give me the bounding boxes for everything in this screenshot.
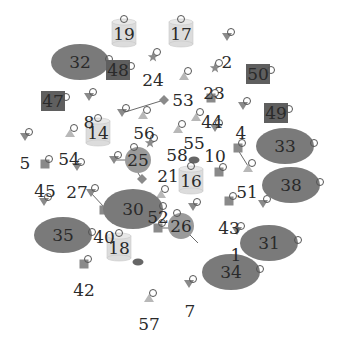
ring-icon xyxy=(150,290,157,297)
node-label-17: 17 xyxy=(170,24,192,44)
square-marker-icon xyxy=(80,256,92,269)
triangle-down-marker-icon xyxy=(117,105,130,118)
node-label-25: 25 xyxy=(127,150,149,170)
ring-icon xyxy=(154,49,161,56)
node-label-53: 53 xyxy=(172,92,194,109)
triangle-down-marker-icon xyxy=(184,276,197,289)
triangle-down-marker-icon xyxy=(86,185,99,198)
ring-icon xyxy=(249,160,256,167)
node-label-26: 26 xyxy=(170,216,192,236)
ring-icon xyxy=(185,68,192,75)
node-label-38: 38 xyxy=(280,175,302,195)
triangle-down-marker-icon xyxy=(238,98,251,111)
node-label-23: 23 xyxy=(203,85,225,102)
triangle-up-marker-icon xyxy=(179,68,192,81)
node-label-8: 8 xyxy=(84,114,95,131)
node-label-32: 32 xyxy=(69,52,91,72)
ring-icon xyxy=(179,121,186,128)
ring-icon xyxy=(71,125,78,132)
triangle-down-marker-icon xyxy=(84,89,97,102)
node-label-58: 58 xyxy=(166,147,188,164)
node-label-35: 35 xyxy=(52,225,74,245)
node-label-30: 30 xyxy=(122,199,144,219)
ring-icon xyxy=(162,186,169,193)
ring-icon xyxy=(144,107,151,114)
node-label-1: 1 xyxy=(231,247,242,264)
edge xyxy=(91,193,104,207)
star-marker-icon xyxy=(148,49,161,62)
node-label-7: 7 xyxy=(185,303,196,320)
node-label-40: 40 xyxy=(93,229,115,246)
triangle-down-marker-icon xyxy=(109,152,122,165)
node-label-19: 19 xyxy=(113,24,135,44)
network-diagram: 323338303531344850474919171416182526 224… xyxy=(0,0,341,350)
node-label-47: 47 xyxy=(42,91,64,111)
triangle-up-marker-icon xyxy=(65,125,78,138)
node-label-56: 56 xyxy=(133,125,155,142)
node-label-48: 48 xyxy=(107,60,129,80)
node-label-2: 2 xyxy=(222,54,233,71)
node-label-45: 45 xyxy=(34,183,56,200)
node-label-31: 31 xyxy=(258,233,280,253)
triangle-down-marker-icon xyxy=(222,29,235,42)
node-label-44: 44 xyxy=(201,114,223,131)
node-label-4: 4 xyxy=(236,125,247,142)
triangle-up-marker-icon xyxy=(144,290,157,303)
diamond-marker-icon xyxy=(137,174,147,184)
node-label-24: 24 xyxy=(142,72,164,89)
ellipse-small-marker-icon xyxy=(133,259,144,266)
node-label-52: 52 xyxy=(147,209,169,226)
square-marker-icon xyxy=(41,156,53,169)
triangle-down-marker-icon xyxy=(188,199,201,212)
node-label-57: 57 xyxy=(138,316,160,333)
triangle-up-marker-icon xyxy=(156,186,169,199)
triangle-up-marker-icon xyxy=(138,107,151,120)
node-label-42: 42 xyxy=(73,282,95,299)
triangle-down-marker-icon xyxy=(20,129,33,142)
node-label-21: 21 xyxy=(157,168,179,185)
node-label-27: 27 xyxy=(66,184,88,201)
node-label-50: 50 xyxy=(247,64,269,84)
square-marker-icon xyxy=(225,193,237,206)
node-label-43: 43 xyxy=(218,220,240,237)
node-label-51: 51 xyxy=(236,184,258,201)
node-label-16: 16 xyxy=(180,171,202,191)
triangle-up-marker-icon xyxy=(173,121,186,134)
node-label-34: 34 xyxy=(220,262,242,282)
node-label-49: 49 xyxy=(265,103,287,123)
triangle-down-marker-icon xyxy=(258,196,271,209)
node-label-5: 5 xyxy=(20,155,31,172)
node-label-54: 54 xyxy=(58,151,80,168)
node-label-33: 33 xyxy=(274,136,296,156)
diamond-marker-icon xyxy=(159,95,169,105)
node-label-10: 10 xyxy=(204,148,226,165)
